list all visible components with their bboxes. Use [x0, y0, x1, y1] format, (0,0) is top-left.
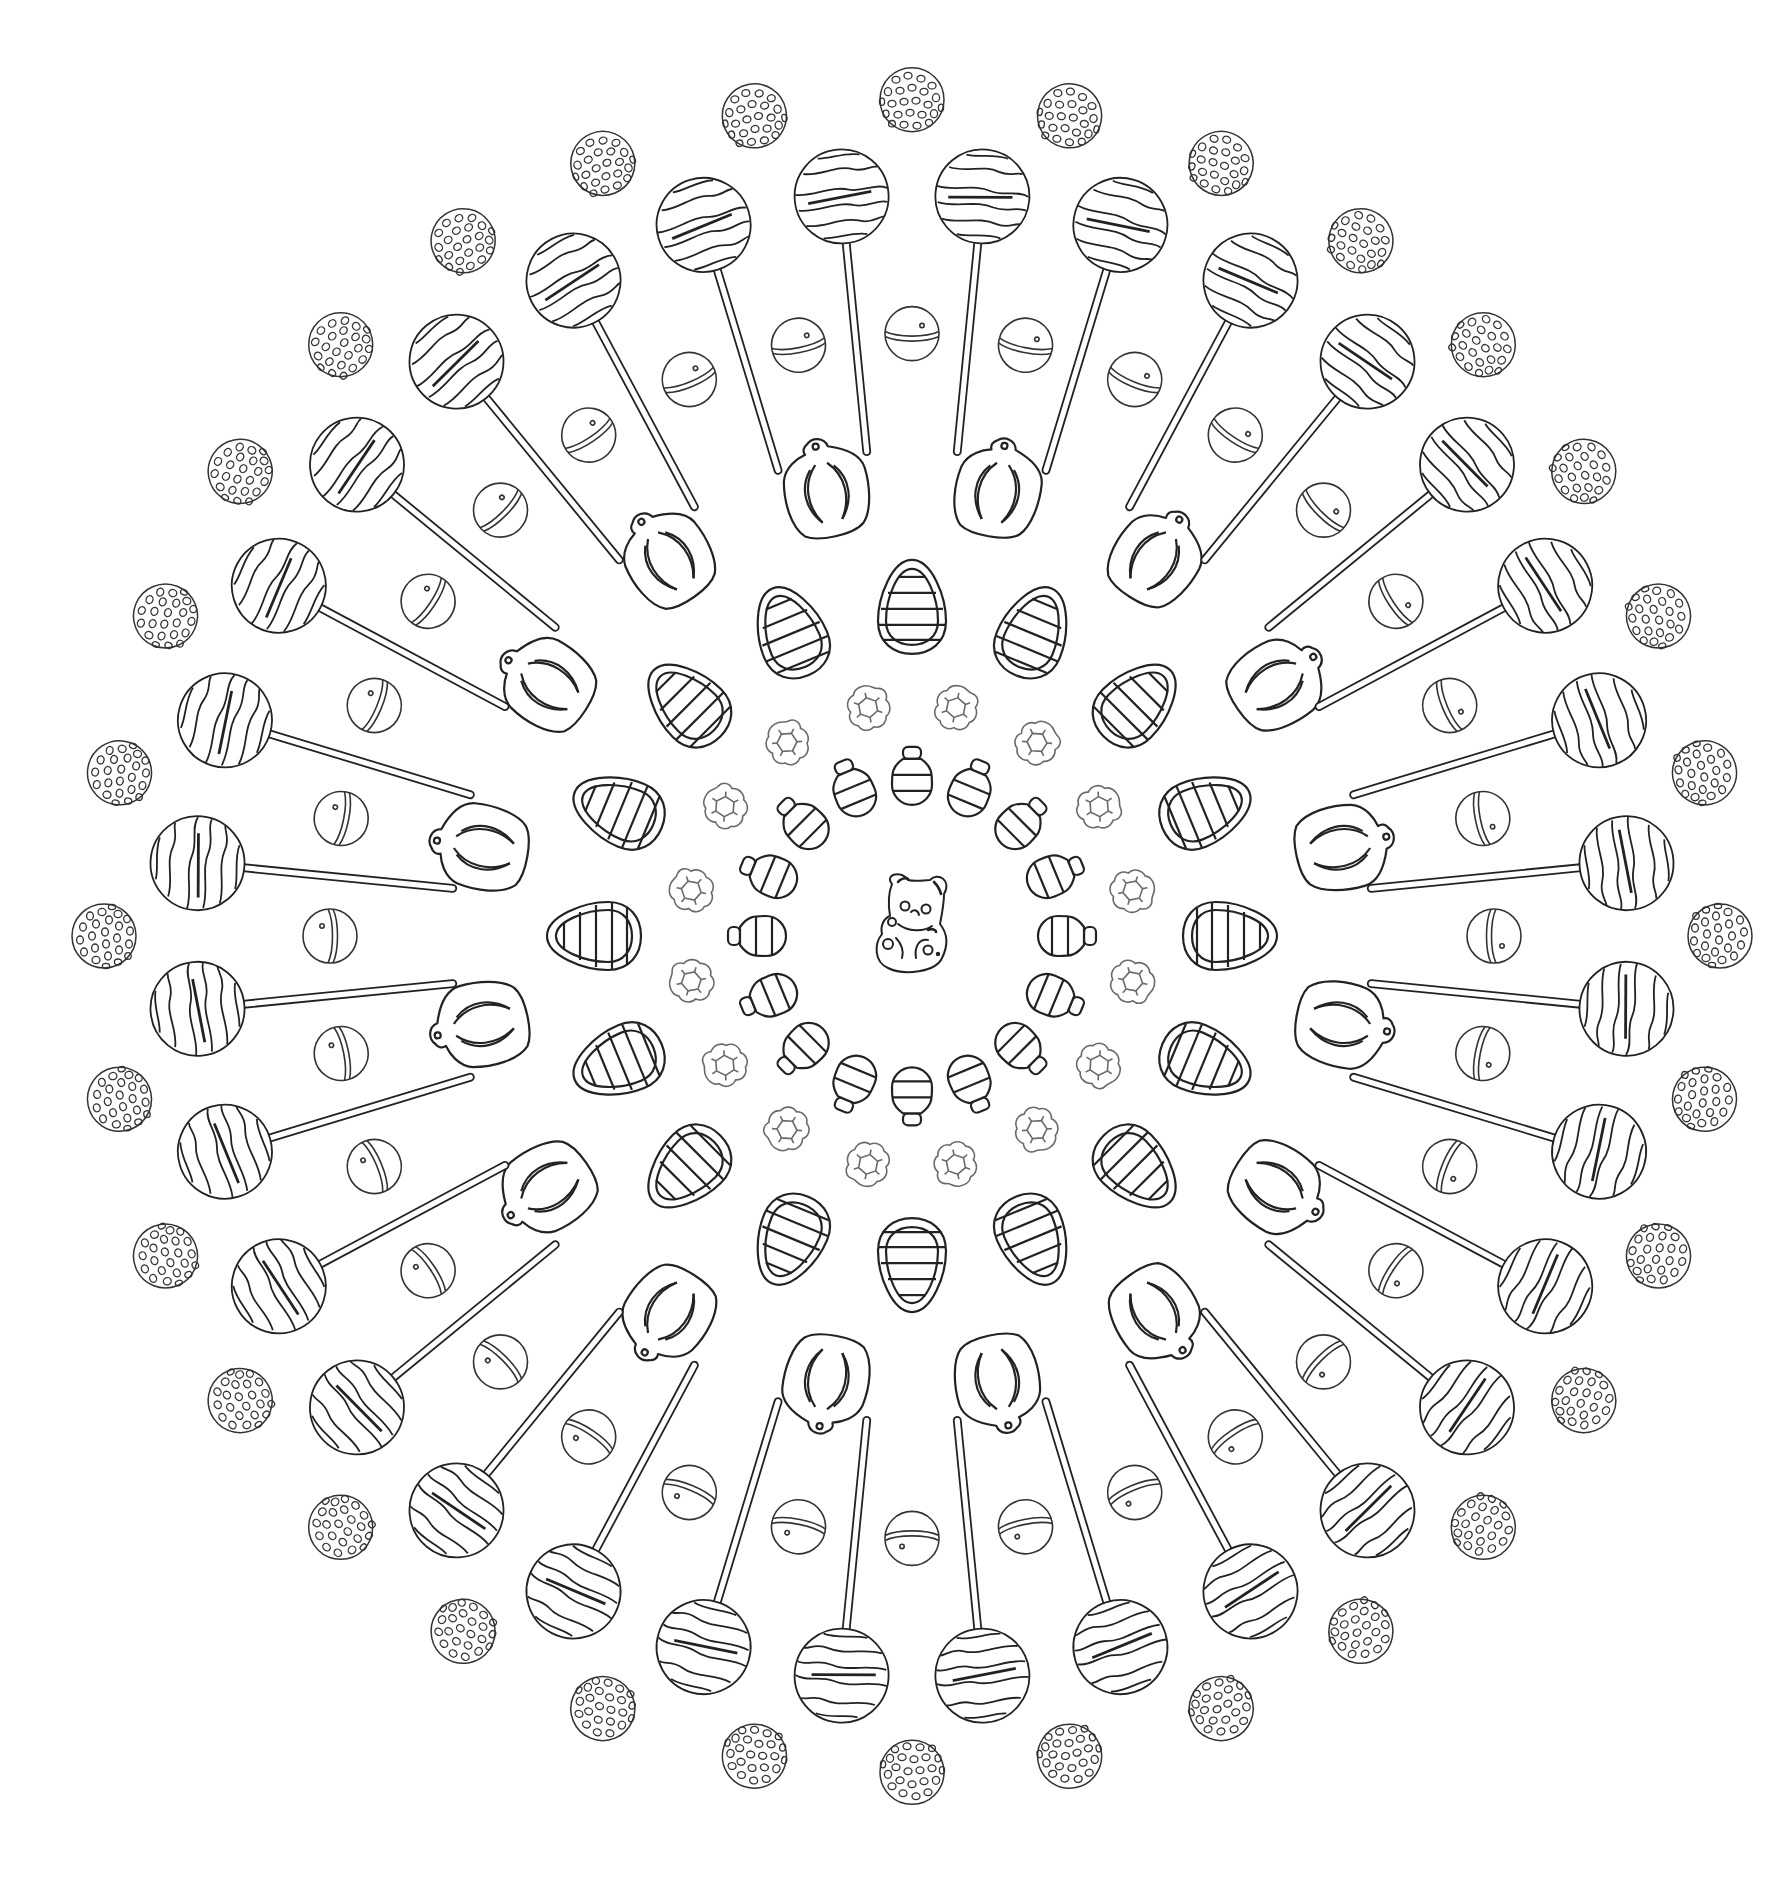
bell-candy-icon [823, 1050, 882, 1119]
halfball-candy-icon [1285, 1324, 1361, 1400]
shell-candy-icon [604, 491, 729, 620]
sprinkle-candy-icon [1179, 121, 1263, 205]
flower-candy-icon [932, 682, 981, 733]
halfball-candy-icon [1414, 670, 1485, 741]
bell-candy-icon [1038, 916, 1096, 956]
sprinkle-candy-icon [82, 1062, 157, 1138]
egg-candy-icon [630, 1111, 745, 1226]
sprinkle-candy-icon [418, 196, 507, 285]
lollipop-candy-icon [910, 145, 1034, 460]
lollipop-candy-icon [390, 1280, 657, 1577]
halfball-candy-icon [654, 344, 725, 415]
bell-candy-icon [734, 845, 803, 904]
sprinkle-candy-icon [1539, 1356, 1628, 1445]
sprinkle-candy-icon [880, 1740, 945, 1804]
halfball-candy-icon [885, 1511, 939, 1565]
halfball-candy-icon [391, 1233, 466, 1308]
halfball-candy-icon [1198, 398, 1273, 473]
halfball-candy-icon [654, 1457, 725, 1528]
shell-candy-icon [774, 1327, 876, 1441]
bell-candy-icon [987, 788, 1056, 857]
flower-candy-icon [1008, 713, 1067, 773]
halfball-candy-icon [994, 1495, 1057, 1558]
egg-candy-icon [1080, 1111, 1195, 1226]
lollipop-candy-icon [1363, 812, 1678, 936]
sprinkle-candy-icon [560, 122, 644, 206]
egg-candy-icon [547, 902, 641, 970]
sprinkle-candy-icon [717, 1719, 793, 1794]
flower-candy-icon [1069, 1036, 1129, 1095]
sprinkle-candy-icon [1617, 1214, 1701, 1298]
flower-candy-icon [666, 956, 717, 1005]
halfball-candy-icon [339, 1131, 410, 1202]
halfball-candy-icon [1414, 1131, 1485, 1202]
shell-candy-icon [480, 1127, 609, 1252]
bell-candy-icon [892, 747, 932, 805]
egg-candy-icon [630, 646, 745, 761]
halfball-candy-icon [767, 313, 830, 376]
halfball-candy-icon [885, 307, 939, 361]
lollipop-candy-icon [1363, 937, 1678, 1061]
sprinkle-candy-icon [195, 427, 284, 516]
halfball-candy-icon [309, 1022, 372, 1085]
egg-candy-icon [984, 1184, 1083, 1297]
shell-candy-icon [1095, 491, 1220, 620]
flower-candy-icon [1107, 957, 1158, 1006]
halfball-candy-icon [339, 670, 410, 741]
sprinkle-candy-icon [72, 904, 136, 969]
flower-candy-icon [931, 1139, 980, 1190]
sprinkle-candy-icon [1316, 196, 1405, 285]
sprinkle-candy-icon [295, 1482, 386, 1573]
sprinkle-candy-icon [124, 1214, 208, 1298]
sprinkle-candy-icon [1616, 574, 1700, 658]
shell-candy-icon [1215, 620, 1344, 745]
flower-candy-icon [1070, 778, 1130, 837]
shell-candy-icon [1095, 1252, 1220, 1381]
sprinkle-candy-icon [1539, 427, 1628, 516]
egg-candy-icon [562, 761, 675, 860]
halfball-candy-icon [1099, 1457, 1170, 1528]
sprinkle-candy-icon [1438, 1482, 1529, 1573]
flower-candy-icon [1007, 1100, 1066, 1160]
lollipop-candy-icon [910, 1412, 1034, 1727]
egg-candy-icon [1183, 902, 1277, 970]
sprinkle-candy-icon [196, 1356, 285, 1445]
lollipop-candy-icon [390, 295, 657, 592]
sprinkle-candy-icon [561, 1667, 645, 1751]
halfball-candy-icon [1451, 1022, 1514, 1085]
flower-candy-icon [757, 1099, 816, 1159]
bell-candy-icon [734, 968, 803, 1027]
flower-candy-icon [843, 1139, 892, 1190]
shell-candy-icon [480, 619, 609, 744]
lollipop-candy-icon [146, 812, 461, 936]
bell-candy-icon [728, 916, 786, 956]
shell-candy-icon [422, 795, 536, 897]
sprinkle-candy-icon [879, 68, 944, 132]
egg-candy-icon [1080, 646, 1195, 761]
sprinkle-candy-icon [1179, 1667, 1263, 1751]
egg-candy-icon [984, 575, 1083, 688]
sprinkle-candy-icon [1667, 735, 1742, 811]
bell-candy-icon [942, 754, 1001, 823]
halfball-candy-icon [994, 313, 1057, 376]
flower-candy-icon [695, 777, 755, 836]
shell-candy-icon [604, 1251, 729, 1380]
lollipop-candy-icon [146, 937, 461, 1061]
shell-candy-icon [775, 431, 877, 545]
sprinkle-candy-icon [295, 299, 386, 390]
shell-candy-icon [947, 1328, 1049, 1442]
lollipop-candy-icon [1166, 1280, 1433, 1577]
gummy-bear-centerpiece [877, 874, 947, 972]
sprinkle-candy-icon [716, 78, 792, 153]
sprinkle-candy-icon [1032, 1718, 1108, 1793]
bell-candy-icon [768, 1015, 837, 1084]
flower-candy-icon [666, 865, 717, 914]
sprinkle-candy-icon [1667, 1061, 1742, 1137]
sprinkle-candy-icon [1438, 299, 1529, 390]
flower-candy-icon [695, 1035, 755, 1094]
egg-candy-icon [878, 1218, 946, 1312]
flower-candy-icon [758, 712, 817, 772]
bell-candy-icon [892, 1067, 932, 1125]
halfball-candy-icon [1198, 1399, 1273, 1474]
candy-mandala [0, 0, 1784, 1885]
